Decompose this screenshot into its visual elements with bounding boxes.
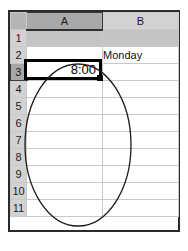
table-row: 1 (11, 30, 179, 47)
row-header-4[interactable]: 4 (11, 81, 27, 98)
cell-a7[interactable] (27, 132, 103, 149)
cell-b10[interactable] (103, 183, 179, 200)
cell-b6[interactable] (103, 115, 179, 132)
cell-b4[interactable] (103, 81, 179, 98)
cell-b2[interactable]: Monday (103, 47, 179, 64)
cell-a10[interactable] (27, 183, 103, 200)
row-header-5[interactable]: 5 (11, 98, 27, 115)
select-all-corner-button[interactable] (11, 13, 27, 30)
row-header-10[interactable]: 10 (11, 183, 27, 200)
row-header-7[interactable]: 7 (11, 132, 27, 149)
table-row: 6 (11, 115, 179, 132)
cell-b8[interactable] (103, 149, 179, 166)
cell-a8[interactable] (27, 149, 103, 166)
cell-a9[interactable] (27, 166, 103, 183)
cell-b9[interactable] (103, 166, 179, 183)
cell-a5[interactable] (27, 98, 103, 115)
fill-handle[interactable] (97, 75, 103, 81)
table-row: 7 (11, 132, 179, 149)
table-row: 9 (11, 166, 179, 183)
row-header-8[interactable]: 8 (11, 149, 27, 166)
cell-a4[interactable] (27, 81, 103, 98)
column-header-row: A B (11, 13, 179, 30)
row-header-11[interactable]: 11 (11, 200, 27, 217)
row-header-6[interactable]: 6 (11, 115, 27, 132)
grid-body: 1 2 Monday 3 4 (11, 30, 179, 217)
column-header-a[interactable]: A (27, 13, 103, 30)
table-row: 5 (11, 98, 179, 115)
cell-b5[interactable] (103, 98, 179, 115)
row-header-9[interactable]: 9 (11, 166, 27, 183)
cell-a1[interactable] (27, 30, 103, 47)
spreadsheet-grid: A B 1 2 Monday 3 (10, 12, 179, 217)
spreadsheet-grid-frame: A B 1 2 Monday 3 (8, 10, 180, 232)
column-header-b[interactable]: B (103, 13, 179, 30)
cell-b1[interactable] (103, 30, 179, 47)
table-row: 8 (11, 149, 179, 166)
table-row: 4 (11, 81, 179, 98)
table-row: 11 (11, 200, 179, 217)
table-row: 10 (11, 183, 179, 200)
cell-a6[interactable] (27, 115, 103, 132)
cell-b7[interactable] (103, 132, 179, 149)
active-cell-value[interactable]: 8:00 (24, 59, 102, 80)
cell-b11[interactable] (103, 200, 179, 217)
spreadsheet-screenshot: A B 1 2 Monday 3 (0, 0, 188, 251)
row-header-1[interactable]: 1 (11, 30, 27, 47)
cell-a11[interactable] (27, 200, 103, 217)
cell-b3[interactable] (103, 64, 179, 81)
